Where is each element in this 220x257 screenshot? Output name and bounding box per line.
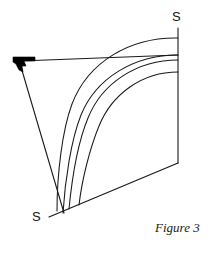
arc-band-inner bbox=[69, 60, 178, 209]
label-s-bottom-left: S bbox=[32, 210, 41, 223]
arc-band-outer bbox=[63, 55, 178, 213]
figure-caption: Figure 3 bbox=[155, 220, 200, 236]
top-edge bbox=[20, 55, 178, 61]
arc-outer bbox=[57, 38, 178, 211]
bottom-diagonal-edge bbox=[49, 163, 178, 217]
label-s-top-right: S bbox=[172, 10, 181, 23]
arc-inner bbox=[79, 72, 178, 205]
filled-arrowhead-icon bbox=[13, 57, 35, 72]
figure-container: S S Figure 3 bbox=[0, 0, 220, 257]
